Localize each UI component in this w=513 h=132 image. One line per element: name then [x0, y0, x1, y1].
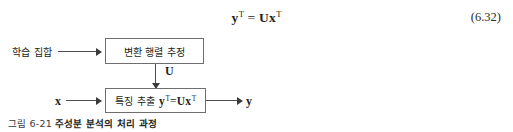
box-formula-rhs-transpose: T — [192, 94, 197, 103]
arrow-training-set-to-transform-box — [58, 51, 101, 52]
box-formula-rhs-matrix: U — [177, 95, 186, 107]
diagram-output-y-label: y — [246, 94, 252, 109]
equation-number: (6.32) — [471, 10, 501, 25]
figure-caption: 그림 6-21주성분 분석의 처리 과정 — [8, 116, 158, 130]
box-formula-rhs-variable: x — [185, 95, 191, 107]
box-formula-operator: = — [170, 95, 177, 107]
equation-row: yT=UxT (6.32) — [0, 9, 513, 31]
arrow-feature-box-to-y — [206, 100, 242, 101]
equation-rhs-matrix: U — [259, 10, 269, 25]
equation-lhs-variable: y — [231, 10, 238, 25]
figure-caption-title: 주성분 분석의 처리 과정 — [55, 118, 158, 129]
figure-caption-number: 그림 6-21 — [8, 118, 52, 129]
equation-expression: yT=UxT — [0, 9, 513, 26]
box-feature-extraction-label: 특징 추출 — [115, 93, 155, 108]
edge-label-u-matrix: U — [165, 64, 174, 79]
box-feature-extraction-formula: yT=UxT — [159, 94, 196, 107]
box-transform-matrix-estimation: 변환 행렬 추정 — [105, 38, 204, 64]
diagram-input-training-set-label: 학습 집합 — [12, 44, 53, 59]
equation-lhs-transpose: T — [239, 9, 244, 19]
arrow-x-to-feature-box — [66, 100, 101, 101]
equation-rhs-transpose: T — [276, 9, 281, 19]
pca-process-diagram: 학습 집합 변환 행렬 추정 U x 특징 추출yT=UxT y — [0, 34, 513, 114]
diagram-input-x-label: x — [55, 94, 61, 109]
box-feature-extraction: 특징 추출yT=UxT — [105, 88, 206, 113]
arrow-transform-box-to-feature-box — [155, 64, 156, 88]
box-transform-matrix-label: 변환 행렬 추정 — [124, 44, 186, 59]
equation-rhs-variable: x — [269, 10, 276, 25]
equation-operator: = — [248, 10, 256, 25]
